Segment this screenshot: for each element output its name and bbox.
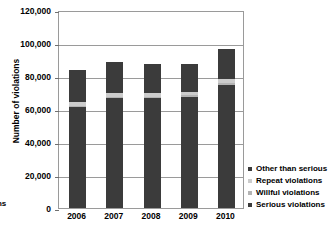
bar-segment[interactable] <box>218 49 235 80</box>
x-axis-tick-label: 2007 <box>104 211 123 221</box>
bar-segment[interactable] <box>181 95 198 97</box>
x-axis-tick-label: 2010 <box>216 211 235 221</box>
y-axis-tick-label: 40,000 <box>25 138 51 148</box>
x-axis-tick-labels: 20062007200820092010 <box>58 211 244 227</box>
legend-label: Serious violations <box>256 199 325 211</box>
plot-area <box>58 11 244 209</box>
legend-label: Willful violations <box>256 187 319 199</box>
bar-segment[interactable] <box>181 92 198 95</box>
legend-swatch-icon <box>248 203 252 207</box>
legend-swatch-icon <box>248 179 252 183</box>
y-axis-tick-label: 20,000 <box>25 171 51 181</box>
x-axis-tick-label: 2009 <box>179 211 198 221</box>
legend-item[interactable]: Serious violations <box>248 199 335 211</box>
bar-segment[interactable] <box>144 64 161 94</box>
legend-label: Repeat violations <box>256 175 322 187</box>
x-axis-tick-label: 2008 <box>142 211 161 221</box>
legend-item[interactable]: Other than serious <box>248 163 335 175</box>
bar-chart: Number of violations 020,00040,00060,000… <box>0 0 335 228</box>
chart-legend: Other than seriousRepeat violationsWillf… <box>248 163 335 211</box>
bar-segment[interactable] <box>106 97 123 99</box>
legend-item[interactable]: Repeat violations <box>248 175 335 187</box>
bar-segment[interactable] <box>144 97 161 99</box>
bar-group[interactable] <box>144 10 161 208</box>
y-axis-tick-label: 80,000 <box>25 72 51 82</box>
bar-group[interactable] <box>69 10 86 208</box>
bar-segment[interactable] <box>69 102 86 106</box>
bar-group[interactable] <box>106 10 123 208</box>
y-axis-tick-label: 60,000 <box>25 105 51 115</box>
y-axis-tick-label: 100,000 <box>20 39 51 49</box>
legend-label: Other than serious <box>256 163 327 175</box>
legend-swatch-icon <box>248 191 252 195</box>
bar-segment[interactable] <box>144 93 161 96</box>
bar-group[interactable] <box>181 10 198 208</box>
bar-segment[interactable] <box>181 97 198 208</box>
bar-segment[interactable] <box>181 64 198 91</box>
bar-segment[interactable] <box>69 106 86 108</box>
bar-segment[interactable] <box>106 93 123 96</box>
bar-segment[interactable] <box>218 85 235 208</box>
bar-segment[interactable] <box>106 62 123 93</box>
bar-segment[interactable] <box>144 98 161 208</box>
y-axis-tick-labels: 020,00040,00060,00080,000100,000120,000 <box>0 0 55 228</box>
y-axis-tick-label: 120,000 <box>20 6 51 16</box>
bar-segment[interactable] <box>218 83 235 85</box>
bar-segment[interactable] <box>69 70 86 101</box>
bar-segment[interactable] <box>218 79 235 83</box>
bars-layer <box>59 12 243 208</box>
bar-segment[interactable] <box>69 107 86 208</box>
legend-item[interactable]: Willful violations <box>248 187 335 199</box>
x-axis-tick-label: 2006 <box>67 211 86 221</box>
edge-text-fragment-bottom: ons <box>0 199 6 208</box>
bar-segment[interactable] <box>106 98 123 208</box>
y-axis-tick-label: 0 <box>46 204 51 214</box>
legend-swatch-icon <box>248 167 252 171</box>
bar-group[interactable] <box>218 10 235 208</box>
